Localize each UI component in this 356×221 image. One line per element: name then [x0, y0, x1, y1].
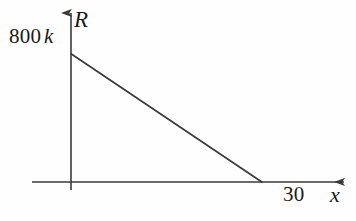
x-intercept-label: 30: [283, 184, 304, 205]
y-intercept-label: 800k: [9, 26, 54, 47]
axes-group: [32, 13, 344, 190]
y-axis-label: R: [74, 8, 88, 31]
revenue-line-segment: [71, 54, 262, 182]
y-intercept-unit: k: [41, 24, 54, 48]
revenue-line-graph-figure: 800k R 30 x: [0, 0, 356, 221]
y-intercept-value: 800: [9, 24, 41, 48]
data-series-group: [71, 54, 262, 182]
x-axis-label: x: [330, 184, 340, 206]
